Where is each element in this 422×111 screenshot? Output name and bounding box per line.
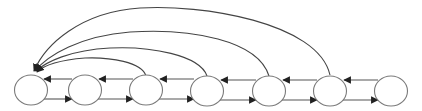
state-node-6 — [314, 76, 347, 106]
state-chain-diagram — [0, 0, 422, 111]
state-node-3 — [130, 75, 163, 105]
state-node-2 — [69, 75, 102, 105]
edge-n6-to-n1 — [34, 7, 330, 75]
long-range-edges — [34, 7, 330, 76]
state-node-4 — [191, 76, 224, 106]
state-node-1 — [15, 75, 48, 105]
state-node-7 — [375, 76, 408, 106]
edge-n4-to-n1 — [36, 48, 207, 76]
state-node-5 — [253, 76, 286, 106]
